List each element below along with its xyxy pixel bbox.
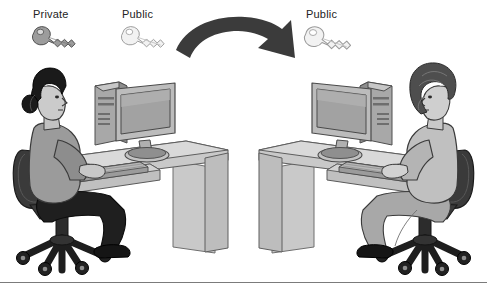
scene-graphic xyxy=(0,0,487,290)
public-key-icon-right xyxy=(304,27,350,49)
private-key-icon xyxy=(32,27,75,48)
bottom-divider-rule xyxy=(0,282,487,283)
left-workstation xyxy=(13,68,228,276)
illustration-canvas: Private Public Public xyxy=(0,0,487,290)
public-key-icon-left xyxy=(121,27,164,48)
transfer-arrow-icon xyxy=(176,17,295,58)
right-workstation xyxy=(259,63,474,276)
